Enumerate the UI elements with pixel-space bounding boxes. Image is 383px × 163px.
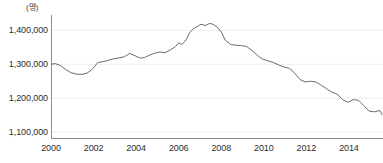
x-axis-tick-label: 2004 bbox=[126, 143, 146, 153]
x-axis-tick-label: 2012 bbox=[297, 143, 317, 153]
x-axis-tick-label: 2008 bbox=[211, 143, 231, 153]
x-axis-tick-label: 2014 bbox=[339, 143, 359, 153]
data-series-line bbox=[51, 23, 382, 114]
plot-area bbox=[51, 15, 383, 139]
axis-tick-marks bbox=[51, 30, 349, 139]
x-axis-tick-label: 2010 bbox=[254, 143, 274, 153]
gridlines bbox=[51, 30, 383, 132]
axis-lines bbox=[51, 15, 383, 139]
line-chart-svg bbox=[51, 15, 383, 139]
x-axis-tick-label: 2002 bbox=[84, 143, 104, 153]
x-axis-tick-label: 2000 bbox=[41, 143, 61, 153]
chart-container: (명) 1,100,0001,200,0001,300,0001,400,000… bbox=[0, 0, 383, 163]
x-axis-tick-label: 2006 bbox=[169, 143, 189, 153]
